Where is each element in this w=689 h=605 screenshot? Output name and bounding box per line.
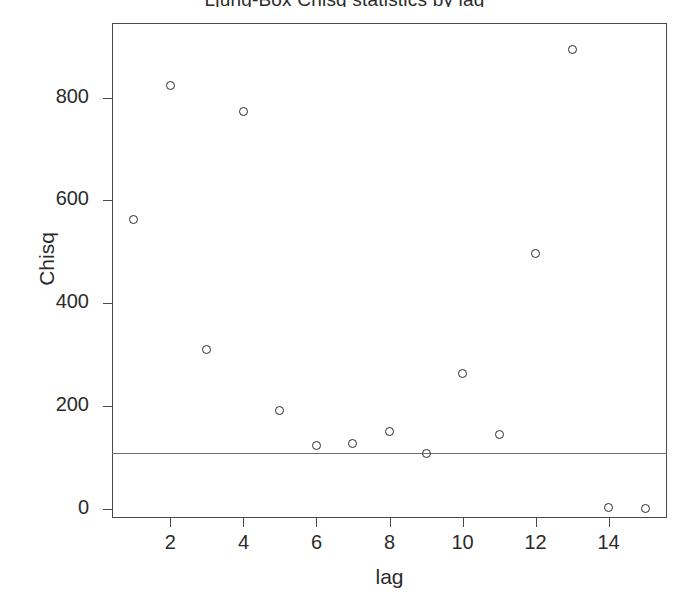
x-axis-tick-mark [170, 518, 171, 527]
data-point [239, 107, 248, 116]
y-axis-tick-mark [103, 509, 112, 510]
scatter-plot: Ljung-Box Chisq statistics by lag Chisq … [0, 0, 689, 605]
data-point [641, 504, 650, 513]
x-axis-tick-label: 8 [360, 531, 420, 554]
data-point [531, 249, 540, 258]
x-axis-tick-label: 14 [579, 531, 639, 554]
x-axis-tick-label: 2 [140, 531, 200, 554]
y-axis-tick-label: 600 [0, 187, 89, 210]
x-axis-tick-mark [243, 518, 244, 527]
data-point [458, 369, 467, 378]
y-axis-tick-label: 200 [0, 393, 89, 416]
y-axis-tick-mark [103, 406, 112, 407]
y-axis-tick-label: 800 [0, 85, 89, 108]
y-axis-tick-mark [103, 200, 112, 201]
y-axis-tick-label: 400 [0, 290, 89, 313]
data-point [312, 441, 321, 450]
x-axis-title: lag [112, 565, 667, 589]
data-point [495, 430, 504, 439]
data-point [568, 45, 577, 54]
x-axis-tick-mark [316, 518, 317, 527]
chart-title: Ljung-Box Chisq statistics by lag [0, 0, 689, 7]
x-axis-tick-mark [463, 518, 464, 527]
x-axis-tick-mark [536, 518, 537, 527]
y-axis-tick-label: 0 [0, 496, 89, 519]
data-point [166, 81, 175, 90]
data-point [385, 427, 394, 436]
plot-frame [112, 23, 667, 518]
y-axis-tick-mark [103, 98, 112, 99]
x-axis-tick-label: 10 [433, 531, 493, 554]
x-axis-tick-mark [390, 518, 391, 527]
x-axis-tick-label: 6 [286, 531, 346, 554]
significance-threshold-line [112, 453, 667, 454]
x-axis-tick-label: 4 [213, 531, 273, 554]
x-axis-tick-label: 12 [506, 531, 566, 554]
x-axis-tick-mark [609, 518, 610, 527]
y-axis-tick-mark [103, 303, 112, 304]
data-point [422, 449, 431, 458]
